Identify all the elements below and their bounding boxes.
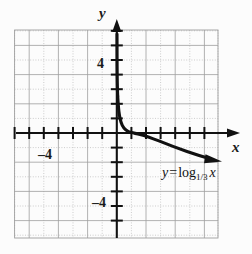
x-tick-label-negative-4: –4 <box>38 148 52 162</box>
equation-operator: = <box>168 165 178 180</box>
equation-argument: x <box>208 165 216 180</box>
x-axis-label: x <box>232 140 240 155</box>
plot-canvas <box>0 0 252 254</box>
y-axis-label: y <box>99 6 106 21</box>
equation-function-name: log <box>178 165 196 180</box>
log-curve-arrowhead <box>204 154 222 163</box>
curve-equation-annotation: y=log1/3x <box>162 166 216 182</box>
x-axis-arrowhead <box>227 128 240 137</box>
equation-base-subscript: 1/3 <box>196 172 208 182</box>
y-tick-label-4: 4 <box>97 57 104 71</box>
y-tick-label-negative-4: –4 <box>92 196 106 210</box>
logarithmic-function-graph: y x 4 –4 –4 y=log1/3x <box>0 0 252 254</box>
log-curve-asymptote-tail <box>117 34 118 96</box>
